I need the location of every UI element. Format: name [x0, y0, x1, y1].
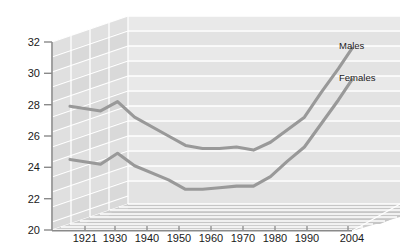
x-tick-label-1970: 1970 [231, 232, 255, 244]
x-tick-label-2004: 2004 [340, 232, 364, 244]
y-tick-label-24: 24 [28, 161, 40, 173]
y-tick-label-32: 32 [28, 36, 40, 48]
y-tick-label-30: 30 [28, 67, 40, 79]
y-tick-label-26: 26 [28, 130, 40, 142]
x-tick-label-1930: 1930 [103, 232, 127, 244]
x-tick-label-1980: 1980 [263, 232, 287, 244]
side-wall [52, 16, 128, 230]
x-tick-label-1960: 1960 [199, 232, 223, 244]
series-label-males: Males [339, 40, 365, 51]
chart-container: 32 30 28 26 24 22 20 1921 1930 [0, 0, 400, 244]
line-chart-3d: 32 30 28 26 24 22 20 1921 1930 [0, 0, 400, 244]
y-tick-label-20: 20 [28, 224, 40, 236]
x-tick-label-1921: 1921 [73, 232, 97, 244]
x-tick-label-1940: 1940 [135, 232, 159, 244]
x-tick-label-1990: 1990 [295, 232, 319, 244]
y-axis: 32 30 28 26 24 22 20 [28, 36, 52, 236]
x-tick-label-1950: 1950 [167, 232, 191, 244]
series-label-females: Females [339, 72, 376, 83]
y-tick-label-28: 28 [28, 99, 40, 111]
y-tick-label-22: 22 [28, 193, 40, 205]
